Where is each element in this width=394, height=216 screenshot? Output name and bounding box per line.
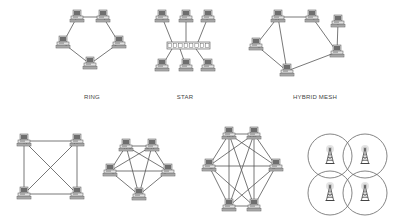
- computer-icon: [145, 139, 159, 151]
- network-topologies-figure: RINGSTARHYBRID MESH: [0, 0, 394, 216]
- computer-icon: [83, 57, 97, 69]
- computer-icon: [103, 164, 117, 176]
- diagram-hybrid-mesh: [256, 17, 338, 71]
- computer-icon: [331, 15, 345, 27]
- radio-tower-icon: [361, 145, 370, 164]
- diagram-star: [162, 17, 208, 66]
- computer-icon: [201, 10, 215, 22]
- computer-icon: [269, 159, 283, 171]
- diagram-label-star: STAR: [177, 94, 194, 100]
- network-link: [126, 146, 139, 195]
- computer-icon: [161, 164, 175, 176]
- nodes-layer: [17, 10, 370, 211]
- computer-icon: [201, 59, 215, 71]
- computer-icon: [330, 45, 344, 57]
- computer-icon: [247, 127, 261, 139]
- network-link: [139, 146, 152, 195]
- hub-switch-icon: [167, 42, 210, 49]
- computer-icon: [247, 199, 261, 211]
- diagram-full-mesh-5: [110, 146, 168, 195]
- computer-icon: [155, 59, 169, 71]
- computer-icon: [70, 134, 84, 146]
- computer-icon: [155, 10, 169, 22]
- diagram-full-mesh-4: [24, 141, 77, 194]
- computer-icon: [132, 188, 146, 200]
- computer-icon: [112, 36, 126, 48]
- computer-icon: [249, 38, 263, 50]
- diagram-full-mesh-6: [209, 134, 276, 206]
- diagram-label-hybrid-mesh: HYBRID MESH: [293, 94, 337, 100]
- computer-icon: [70, 10, 84, 22]
- radio-tower-icon: [326, 182, 335, 201]
- computer-icon: [17, 134, 31, 146]
- network-link: [278, 17, 287, 71]
- computer-icon: [96, 10, 110, 22]
- diagram-label-ring: RING: [84, 94, 100, 100]
- computer-icon: [202, 159, 216, 171]
- computer-icon: [222, 127, 236, 139]
- computer-icon: [56, 36, 70, 48]
- computer-icon: [179, 10, 193, 22]
- network-link: [287, 52, 337, 71]
- computer-icon: [179, 59, 193, 71]
- diagram-wireless-mesh: [308, 134, 387, 215]
- radio-tower-icon: [326, 145, 335, 164]
- radio-tower-icon: [361, 182, 370, 201]
- computer-icon: [222, 199, 236, 211]
- computer-icon: [280, 64, 294, 76]
- labels-layer: RINGSTARHYBRID MESH: [84, 94, 337, 100]
- computer-icon: [271, 10, 285, 22]
- computer-icon: [305, 10, 319, 22]
- computer-icon: [119, 139, 133, 151]
